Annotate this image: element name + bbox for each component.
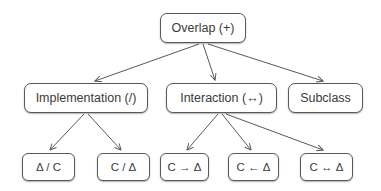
diagram-canvas: Overlap (+) Implementation (/) Interacti…: [0, 0, 381, 191]
node-interaction[interactable]: Interaction (↔): [166, 83, 277, 113]
node-delta-to-c-label: C ← Δ: [237, 161, 271, 173]
node-c-bidirectional-delta[interactable]: C ↔ Δ: [300, 153, 353, 181]
node-c-bidirectional-delta-label: C ↔ Δ: [310, 161, 344, 173]
node-interaction-label: Interaction (↔): [180, 91, 263, 105]
node-c-to-delta[interactable]: C → Δ: [160, 153, 209, 181]
node-delta-over-c[interactable]: Δ / C: [22, 153, 75, 181]
edge-root-to-subclass: [208, 44, 323, 81]
edge-implementation-to-leaf1: [50, 114, 84, 150]
node-overlap[interactable]: Overlap (+): [160, 13, 246, 43]
edge-interaction-to-leaf5: [226, 114, 323, 150]
edge-implementation-to-leaf2: [88, 114, 121, 150]
node-c-over-delta[interactable]: C / Δ: [97, 153, 150, 181]
node-c-to-delta-label: C → Δ: [168, 161, 202, 173]
node-subclass-label: Subclass: [300, 91, 351, 105]
node-c-over-delta-label: C / Δ: [111, 161, 137, 173]
edge-interaction-to-leaf3: [187, 114, 218, 150]
node-delta-to-c[interactable]: C ← Δ: [228, 153, 279, 181]
node-delta-over-c-label: Δ / C: [36, 161, 61, 173]
edge-interaction-to-leaf4: [222, 114, 251, 150]
edge-root-to-implementation: [95, 44, 199, 81]
node-implementation-label: Implementation (/): [36, 91, 137, 105]
edge-root-to-interaction: [203, 44, 215, 80]
node-overlap-label: Overlap (+): [172, 21, 235, 35]
node-subclass[interactable]: Subclass: [288, 83, 363, 113]
node-implementation[interactable]: Implementation (/): [24, 83, 148, 113]
